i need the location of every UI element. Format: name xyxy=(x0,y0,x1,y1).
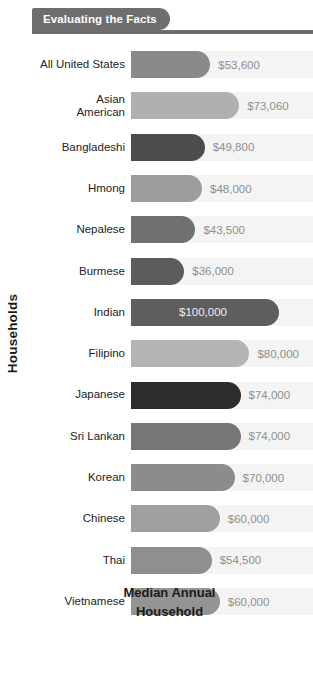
bar-value-label: $60,000 xyxy=(228,505,270,532)
bar-track: $74,000 xyxy=(131,382,313,409)
bar xyxy=(131,340,249,367)
category-label: Korean xyxy=(26,471,131,484)
category-label: AsianAmerican xyxy=(26,93,131,119)
x-axis-title-line2: Household xyxy=(26,603,313,622)
bar-value-label: $74,000 xyxy=(249,382,291,409)
bar-value-label: $70,000 xyxy=(243,464,285,491)
bar-row: All United States$53,600 xyxy=(26,44,313,85)
bar-track: $60,000 xyxy=(131,505,313,532)
bar-row: Sri Lankan$74,000 xyxy=(26,416,313,457)
bar-row: Indian$100,000 xyxy=(26,292,313,333)
bar-track: $73,060 xyxy=(131,92,313,119)
bar-track: $80,000 xyxy=(131,340,313,367)
bar-value-label: $54,500 xyxy=(220,547,262,574)
bar-value-label: $49,800 xyxy=(213,134,255,161)
category-label: Thai xyxy=(26,554,131,567)
bar-value-label: $74,000 xyxy=(249,423,291,450)
bar-row: Nepalese$43,500 xyxy=(26,209,313,250)
bar xyxy=(131,547,212,574)
bar-value-label: $73,060 xyxy=(247,92,289,119)
bar-row: Bangladeshi$49,800 xyxy=(26,127,313,168)
bar xyxy=(131,51,210,78)
bar-track: $100,000 xyxy=(131,299,313,326)
bar-value-label: $36,000 xyxy=(192,258,234,285)
bar-value-label: $100,000 xyxy=(179,299,227,326)
category-label-line1: Asian xyxy=(26,93,125,106)
bar-chart: Households All United States$53,600Asian… xyxy=(0,44,313,622)
bar-value-label: $43,500 xyxy=(203,216,245,243)
chart-title-text: Evaluating the Facts xyxy=(43,13,157,25)
bar-value-label: $53,600 xyxy=(218,51,260,78)
category-label: Nepalese xyxy=(26,223,131,236)
y-axis-title-text: Households xyxy=(6,293,21,372)
category-label: Chinese xyxy=(26,512,131,525)
bar xyxy=(131,423,241,450)
bar-track: $54,500 xyxy=(131,547,313,574)
header-divider xyxy=(32,30,313,34)
bar xyxy=(131,92,239,119)
bar-rows: All United States$53,600AsianAmerican$73… xyxy=(26,44,313,622)
bar-track: $43,500 xyxy=(131,216,313,243)
bar-track: $70,000 xyxy=(131,464,313,491)
category-label-line2: American xyxy=(26,106,125,119)
bar xyxy=(131,505,220,532)
y-axis-title: Households xyxy=(0,44,26,622)
category-label: All United States xyxy=(26,58,131,71)
bar xyxy=(131,216,195,243)
x-axis-title-line1: Median Annual xyxy=(26,584,313,603)
bar-row: Thai$54,500 xyxy=(26,540,313,581)
category-label: Filipino xyxy=(26,347,131,360)
category-label: Sri Lankan xyxy=(26,430,131,443)
bar-value-label: $48,000 xyxy=(210,175,252,202)
category-label: Hmong xyxy=(26,182,131,195)
x-axis-title: Median Annual Household xyxy=(26,584,313,622)
bar-row: Korean$70,000 xyxy=(26,457,313,498)
bar-value-label: $80,000 xyxy=(257,340,299,367)
bar xyxy=(131,258,184,285)
bar-row: AsianAmerican$73,060 xyxy=(26,85,313,126)
bar-track: $49,800 xyxy=(131,134,313,161)
category-label: Bangladeshi xyxy=(26,141,131,154)
bar xyxy=(131,134,205,161)
bar-track: $53,600 xyxy=(131,51,313,78)
category-label: Indian xyxy=(26,306,131,319)
bar-track: $36,000 xyxy=(131,258,313,285)
bar xyxy=(131,175,202,202)
bar-track: $74,000 xyxy=(131,423,313,450)
bar-row: Burmese$36,000 xyxy=(26,250,313,291)
bar-row: Chinese$60,000 xyxy=(26,498,313,539)
category-label: Japanese xyxy=(26,388,131,401)
chart-title-tab: Evaluating the Facts xyxy=(32,8,170,30)
bar xyxy=(131,382,241,409)
bar-track: $48,000 xyxy=(131,175,313,202)
bar-row: Hmong$48,000 xyxy=(26,168,313,209)
category-label: Burmese xyxy=(26,265,131,278)
bar-row: Japanese$74,000 xyxy=(26,374,313,415)
chart-header: Evaluating the Facts xyxy=(0,8,313,40)
bar-row: Filipino$80,000 xyxy=(26,333,313,374)
bar xyxy=(131,464,235,491)
